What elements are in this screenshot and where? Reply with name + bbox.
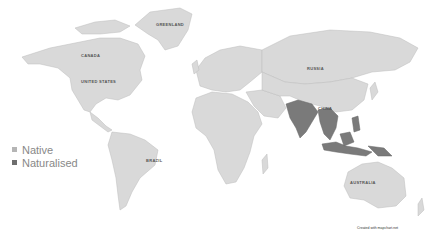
new-zealand — [418, 198, 424, 216]
arctic-islands — [75, 20, 130, 34]
label-united-states: UNITED STATES — [81, 79, 116, 84]
africa — [192, 92, 262, 184]
label-greenland: GREENLAND — [156, 22, 184, 27]
europe — [196, 46, 262, 92]
legend-label-native: Native — [22, 144, 53, 156]
japan — [370, 82, 378, 100]
legend: Native Naturalised — [12, 143, 78, 169]
label-brazil: BRAZIL — [146, 158, 163, 163]
australia — [344, 162, 406, 208]
greenland — [135, 8, 192, 50]
philippines — [352, 116, 360, 132]
madagascar — [262, 154, 268, 174]
russia — [262, 30, 418, 84]
india-region — [286, 100, 318, 138]
label-china: CHINA — [318, 106, 332, 111]
legend-item-naturalised: Naturalised — [12, 156, 78, 169]
label-canada: CANADA — [81, 53, 100, 58]
legend-label-naturalised: Naturalised — [22, 157, 78, 169]
new-guinea — [368, 146, 392, 156]
native-swatch-icon — [12, 147, 17, 152]
north-america — [22, 38, 145, 112]
south-america — [108, 132, 158, 210]
label-australia: AUSTRALIA — [350, 180, 376, 185]
borneo — [340, 132, 354, 146]
se-asia-mainland — [318, 108, 338, 140]
label-russia: RUSSIA — [307, 66, 324, 71]
naturalised-swatch-icon — [12, 160, 17, 165]
world-map: GREENLAND CANADA UNITED STATES RUSSIA CH… — [0, 0, 427, 236]
credit-text: Created with mapchart.net — [357, 226, 398, 230]
legend-item-native: Native — [12, 143, 78, 156]
central-america — [90, 112, 112, 132]
